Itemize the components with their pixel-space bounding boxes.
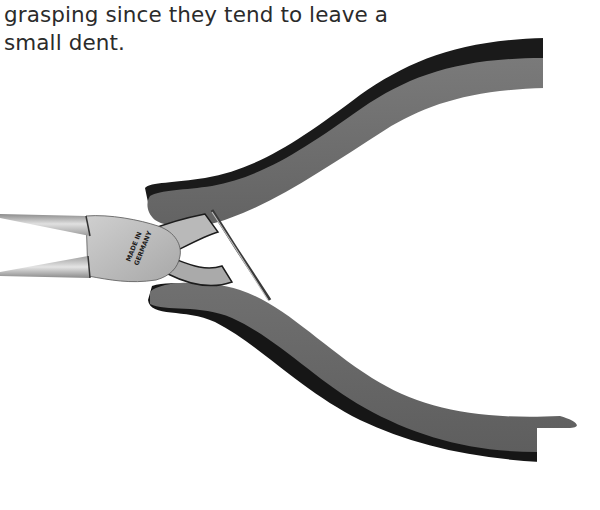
lower-jaw: [0, 256, 90, 278]
lower-handle-end-mask: [537, 428, 600, 468]
upper-handle-grip: [147, 58, 552, 227]
upper-handle-end-mask: [543, 20, 600, 90]
upper-handle: [145, 38, 552, 227]
lower-handle: [148, 283, 577, 462]
jaws: [0, 214, 90, 278]
pliers-head: MADE IN GERMANY: [86, 214, 232, 286]
lower-handle-grip: [150, 283, 577, 452]
pliers-illustration: MADE IN GERMANY: [0, 0, 600, 510]
upper-jaw: [0, 214, 90, 236]
